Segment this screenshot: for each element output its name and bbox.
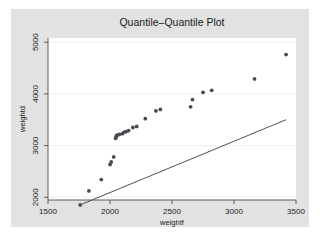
data-point [109,160,113,164]
data-point [284,53,288,57]
y-tick-label: 5000 [31,33,40,51]
data-point [87,189,91,193]
data-point [112,155,116,159]
x-tick-label: 2000 [101,207,119,216]
figure-canvas: 5000 4000 3000 2000 1500 2000 2500 3000 … [0,0,320,241]
data-point [158,108,162,112]
x-tick-label: 3000 [225,207,243,216]
data-point [191,98,195,102]
data-point [189,105,193,109]
data-point [131,126,135,130]
y-axis-tick-labels: 5000 4000 3000 2000 [31,33,40,206]
data-point [99,178,103,182]
x-axis-title: weightf [159,218,185,227]
y-axis-ticks [44,42,48,197]
data-point [78,203,82,207]
y-axis-title: weightd [18,106,27,133]
x-axis-tick-labels: 1500 2000 2500 3000 3500 [39,207,305,216]
x-tick-label: 3500 [287,207,305,216]
x-tick-label: 1500 [39,207,57,216]
y-tick-label: 3000 [31,136,40,154]
y-tick-label: 4000 [31,84,40,102]
plot-area-background [48,38,296,200]
data-point [154,109,158,113]
data-point [135,125,139,129]
data-point [127,129,131,133]
y-tick-label: 2000 [31,188,40,206]
x-tick-label: 2500 [163,207,181,216]
qq-plot-svg: 5000 4000 3000 2000 1500 2000 2500 3000 … [0,0,320,241]
data-point [201,90,205,94]
chart-title: Quantile–Quantile Plot [119,16,224,28]
x-axis-ticks [48,200,296,204]
data-point [143,117,147,121]
data-point [210,88,214,92]
data-point [253,77,257,81]
